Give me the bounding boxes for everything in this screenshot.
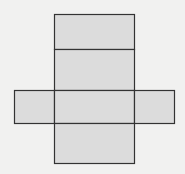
face-right [135,91,175,124]
face-front [55,124,135,164]
prism-net-diagram [0,0,185,174]
face-bottom [55,91,135,124]
face-left [15,91,55,124]
face-top [55,15,135,50]
face-back [55,50,135,91]
